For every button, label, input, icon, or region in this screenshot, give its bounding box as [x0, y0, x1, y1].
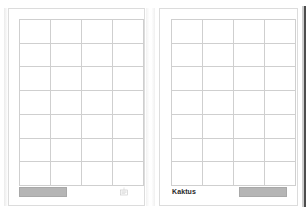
form-cell[interactable] — [234, 115, 265, 139]
document-spread: Kaktus — [0, 0, 307, 222]
form-cell[interactable] — [51, 67, 82, 91]
page-right-sheet: Kaktus — [159, 8, 298, 206]
form-cell[interactable] — [113, 139, 144, 163]
form-cell[interactable] — [82, 91, 113, 115]
form-cell[interactable] — [20, 139, 51, 163]
form-cell[interactable] — [51, 91, 82, 115]
form-cell[interactable] — [234, 139, 265, 163]
form-cell[interactable] — [82, 67, 113, 91]
form-cell[interactable] — [82, 162, 113, 186]
form-cell[interactable] — [82, 139, 113, 163]
form-cell[interactable] — [234, 20, 265, 44]
form-cell[interactable] — [113, 91, 144, 115]
form-cell[interactable] — [20, 162, 51, 186]
spread-gutter — [146, 8, 155, 206]
form-cell[interactable] — [234, 91, 265, 115]
form-cell[interactable] — [20, 91, 51, 115]
page-left-footer — [19, 186, 134, 199]
form-cell[interactable] — [265, 115, 296, 139]
form-cell[interactable] — [113, 162, 144, 186]
page-right-form-grid[interactable] — [171, 19, 296, 186]
page-right-footer: Kaktus — [170, 186, 287, 199]
form-cell[interactable] — [113, 115, 144, 139]
form-cell[interactable] — [265, 20, 296, 44]
form-cell[interactable] — [203, 162, 234, 186]
form-cell[interactable] — [234, 67, 265, 91]
form-cell[interactable] — [172, 44, 203, 68]
form-cell[interactable] — [203, 44, 234, 68]
form-cell[interactable] — [20, 20, 51, 44]
form-cell[interactable] — [51, 44, 82, 68]
form-cell[interactable] — [172, 115, 203, 139]
form-cell[interactable] — [82, 20, 113, 44]
page-right-footer-row: Kaktus — [170, 186, 287, 199]
form-cell[interactable] — [82, 44, 113, 68]
page-right-fill-block[interactable] — [239, 187, 287, 197]
form-cell[interactable] — [20, 67, 51, 91]
form-cell[interactable] — [265, 91, 296, 115]
page-right-binding-edge — [304, 6, 306, 207]
stamp-mark-icon — [118, 186, 130, 198]
form-cell[interactable] — [265, 162, 296, 186]
form-cell[interactable] — [203, 67, 234, 91]
form-cell[interactable] — [265, 67, 296, 91]
page-left[interactable] — [0, 0, 152, 222]
form-cell[interactable] — [113, 20, 144, 44]
form-cell[interactable] — [51, 20, 82, 44]
page-left-footer-row — [19, 186, 134, 199]
form-cell[interactable] — [203, 115, 234, 139]
form-cell[interactable] — [51, 162, 82, 186]
form-cell[interactable] — [51, 139, 82, 163]
form-cell[interactable] — [172, 67, 203, 91]
form-cell[interactable] — [20, 44, 51, 68]
form-cell[interactable] — [265, 44, 296, 68]
page-right[interactable]: Kaktus — [152, 0, 307, 222]
form-cell[interactable] — [172, 139, 203, 163]
form-cell[interactable] — [172, 20, 203, 44]
form-cell[interactable] — [172, 162, 203, 186]
form-cell[interactable] — [234, 44, 265, 68]
form-cell[interactable] — [82, 115, 113, 139]
page-right-footer-title: Kaktus — [172, 186, 196, 198]
form-cell[interactable] — [203, 139, 234, 163]
page-left-form-grid[interactable] — [19, 19, 144, 186]
form-cell[interactable] — [234, 162, 265, 186]
form-cell[interactable] — [113, 44, 144, 68]
page-left-sheet — [8, 8, 145, 206]
form-cell[interactable] — [20, 115, 51, 139]
page-left-fill-block[interactable] — [19, 187, 67, 197]
form-cell[interactable] — [265, 139, 296, 163]
form-cell[interactable] — [51, 115, 82, 139]
form-cell[interactable] — [172, 91, 203, 115]
form-cell[interactable] — [203, 20, 234, 44]
form-cell[interactable] — [203, 91, 234, 115]
form-cell[interactable] — [113, 67, 144, 91]
